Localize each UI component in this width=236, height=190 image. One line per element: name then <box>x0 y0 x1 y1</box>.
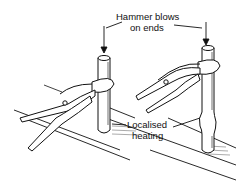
label-hammer-blows-line2: on ends <box>130 22 164 33</box>
illustration: Hammer blows on ends Localised heating <box>0 0 236 190</box>
rod-left <box>98 56 110 134</box>
label-hammer-blows-line1: Hammer blows <box>116 11 180 22</box>
label-localised-heating-line1: Localised <box>127 119 167 130</box>
label-localised-heating-line2: heating <box>132 130 163 141</box>
